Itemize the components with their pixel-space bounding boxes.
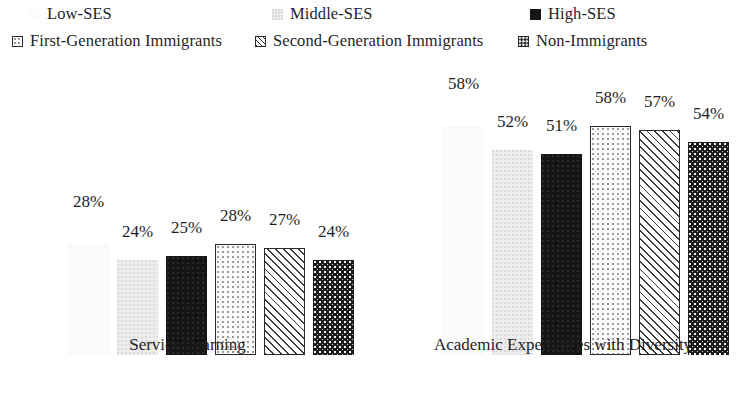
legend-item-low-ses: Low-SES [29,6,112,23]
legend-item-middle-ses: Middle-SES [272,6,373,23]
legend-label-middle-ses: Middle-SES [290,6,373,23]
legend-label-second-generation-immigrants: Second-Generation Immigrants [273,33,483,50]
bar-slot: 28% [68,100,109,355]
group-axis-label-1: Academic Experiences with Diversity [385,336,741,353]
group-axis-label-0: Service Learning [10,336,365,353]
bar-value-label: 27% [269,211,300,228]
bar-low-ses [443,126,484,355]
legend-label-non-immigrants: Non-Immigrants [536,33,647,50]
bar-middle-ses [492,150,533,355]
bar-second-generation-immigrants [639,130,680,355]
bar-chart-plot-area: 28%24%25%28%27%24% Service Learning 58%5… [0,62,741,395]
bar-group-service-learning: 28%24%25%28%27%24% Service Learning [10,62,365,355]
legend-item-first-generation-immigrants: First-Generation Immigrants [12,33,222,50]
bar-value-label: 25% [171,219,202,236]
bar-slot: 51% [541,100,582,355]
legend-label-low-ses: Low-SES [47,6,112,23]
legend-swatch-low-ses-icon [29,9,40,20]
bar-value-label: 52% [497,113,528,130]
bar-slot: 25% [166,100,207,355]
bar-slot: 57% [639,100,680,355]
bar-value-label: 24% [122,223,153,240]
bar-high-ses [541,154,582,355]
bar-value-label: 24% [318,223,349,240]
bar-value-label: 54% [693,105,724,122]
bar-slot: 52% [492,100,533,355]
legend-label-high-ses: High-SES [548,6,616,23]
legend-item-second-generation-immigrants: Second-Generation Immigrants [255,33,483,50]
bar-slot: 24% [313,100,354,355]
bar-group-academic-experiences-with-diversity: 58%52%51%58%57%54% Academic Experiences … [385,62,741,355]
bar-value-label: 51% [546,117,577,134]
bar-slot: 24% [117,100,158,355]
legend-label-first-generation-immigrants: First-Generation Immigrants [30,33,222,50]
legend-swatch-non-immigrants-icon [518,36,529,47]
legend-swatch-first-generation-icon [12,36,23,47]
bar-slot: 27% [264,100,305,355]
chart-legend: Low-SES Middle-SES High-SES First-Genera… [0,0,741,62]
legend-item-high-ses: High-SES [530,6,616,23]
bar-slot: 54% [688,100,729,355]
bar-group-bars: 28%24%25%28%27%24% [10,100,365,355]
bar-value-label: 58% [448,75,479,92]
legend-item-non-immigrants: Non-Immigrants [518,33,647,50]
bar-value-label: 57% [644,93,675,110]
legend-swatch-high-ses-icon [530,9,541,20]
bar-value-label: 28% [220,207,251,224]
bar-slot: 58% [590,100,631,355]
bar-group-bars: 58%52%51%58%57%54% [385,100,741,355]
bar-slot: 58% [443,100,484,355]
bar-value-label: 58% [595,89,626,106]
bar-non-immigrants [688,142,729,355]
bar-first-generation-immigrants [590,126,631,355]
legend-swatch-second-generation-icon [255,36,266,47]
bar-value-label: 28% [73,193,104,210]
bar-slot: 28% [215,100,256,355]
legend-swatch-middle-ses-icon [272,9,283,20]
